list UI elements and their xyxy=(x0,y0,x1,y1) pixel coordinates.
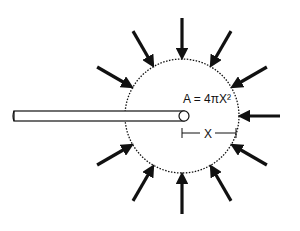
sphere-diagram: X A = 4πX² xyxy=(0,0,300,231)
arrow-icon xyxy=(236,147,267,165)
arrow-icon xyxy=(213,31,231,62)
arrow-icon xyxy=(97,147,128,165)
arrow-icon xyxy=(236,67,267,85)
radius-label: X xyxy=(204,127,212,141)
arrow-icon xyxy=(133,31,151,62)
rod xyxy=(13,111,189,121)
arrow-icon xyxy=(97,67,128,85)
formula-label: A = 4πX² xyxy=(183,92,231,106)
radius-marker: X xyxy=(182,127,236,141)
arrow-icon xyxy=(213,170,231,201)
arrow-icon xyxy=(133,170,151,201)
